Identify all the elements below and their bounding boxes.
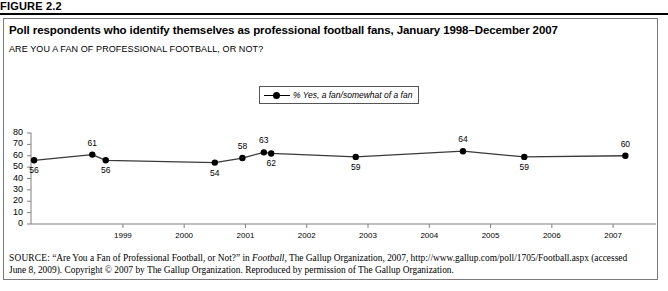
y-axis-tick-label: 10 <box>3 207 23 217</box>
x-axis-tick-label: 2004 <box>411 231 447 240</box>
source-italic-title: Football, <box>252 253 287 263</box>
data-point-label: 62 <box>261 158 281 168</box>
source-note: SOURCE: “Are You a Fan of Professional F… <box>9 252 645 277</box>
chart-title: Poll respondents who identify themselves… <box>9 24 558 36</box>
figure-label: FIGURE 2.2 <box>0 0 668 14</box>
x-axis-tick-label: 1999 <box>105 231 141 240</box>
y-axis-tick-label: 50 <box>3 161 23 171</box>
figure-rule-divider <box>0 13 668 15</box>
figure-frame <box>3 18 658 280</box>
y-axis-tick-label: 80 <box>3 127 23 137</box>
x-axis-tick-label: 2000 <box>166 231 202 240</box>
data-point-label: 58 <box>232 141 252 151</box>
y-axis-tick-label: 70 <box>3 138 23 148</box>
data-point-label: 56 <box>24 165 44 175</box>
legend-marker-icon <box>264 90 290 100</box>
x-axis-tick-label: 2002 <box>289 231 325 240</box>
chart-subtitle: ARE YOU A FAN OF PROFESSIONAL FOOTBALL, … <box>9 44 263 54</box>
x-axis-tick-label: 2007 <box>595 231 631 240</box>
y-axis-tick-label: 40 <box>3 173 23 183</box>
y-axis-tick-label: 20 <box>3 195 23 205</box>
source-keyword: SOURCE <box>9 253 47 263</box>
data-point-label: 56 <box>96 165 116 175</box>
data-point-label: 59 <box>346 162 366 172</box>
x-axis-tick-label: 2003 <box>350 231 386 240</box>
data-point-label: 61 <box>82 138 102 148</box>
x-axis-tick-label: 2005 <box>473 231 509 240</box>
data-point-label: 54 <box>205 168 225 178</box>
data-point-label: 59 <box>514 162 534 172</box>
x-axis-tick-label: 2001 <box>227 231 263 240</box>
data-point-label: 64 <box>453 134 473 144</box>
y-axis-tick-label: 60 <box>3 150 23 160</box>
x-axis-tick-label: 2006 <box>534 231 570 240</box>
y-axis-tick-label: 0 <box>3 218 23 228</box>
data-point-label: 63 <box>254 135 274 145</box>
data-point-label: 60 <box>615 139 635 149</box>
source-text-1: : “Are You a Fan of Professional Footbal… <box>47 253 252 263</box>
legend-series-label: % Yes, a fan/somewhat of a fan <box>293 90 412 100</box>
chart-legend: % Yes, a fan/somewhat of a fan <box>259 86 419 104</box>
y-axis-tick-label: 30 <box>3 184 23 194</box>
